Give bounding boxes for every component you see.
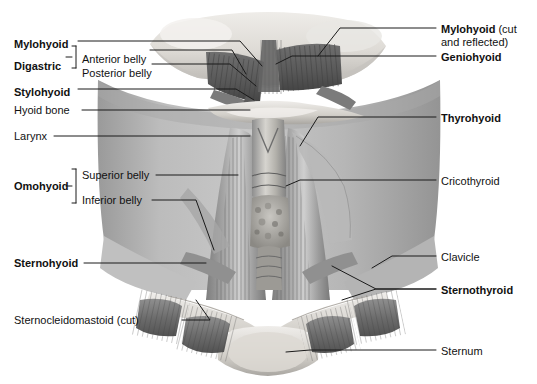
label-mylohyoid: Mylohyoid [14,38,68,50]
label-clavicle: Clavicle [441,251,480,263]
label-sternothyroid: Sternothyroid [441,284,513,296]
label-posterior-belly: Posterior belly [82,67,152,79]
label-mylohyoid-cut-name: Mylohyoid [441,23,495,35]
label-stylohyoid: Stylohyoid [14,86,70,98]
label-thyrohyoid: Thyrohyoid [441,112,501,124]
label-cricothyroid: Cricothyroid [441,175,500,187]
label-sternocleidomastoid: Sternocleidomastoid (cut) [14,314,139,326]
label-sternohyoid: Sternohyoid [14,257,78,269]
label-larynx: Larynx [14,130,47,142]
bracket-digastric-arms [72,46,76,68]
label-hyoid-bone: Hyoid bone [14,104,70,116]
figure-canvas: Mylohyoid Digastric Anterior belly Poste… [0,0,537,384]
label-sternum: Sternum [441,345,483,357]
label-inferior-belly: Inferior belly [82,194,142,206]
label-mylohyoid-cut-line2: and reflected) [441,36,508,48]
label-omohyoid: Omohyoid [14,180,68,192]
label-superior-belly: Superior belly [82,169,149,181]
label-mylohyoid-cut: Mylohyoid (cut [441,23,517,35]
label-geniohyoid: Geniohyoid [441,51,502,63]
label-digastric: Digastric [14,60,61,72]
label-anterior-belly: Anterior belly [82,53,146,65]
label-mylohyoid-cut-suffix: (cut [495,23,516,35]
bracket-omohyoid-arms [72,169,76,203]
